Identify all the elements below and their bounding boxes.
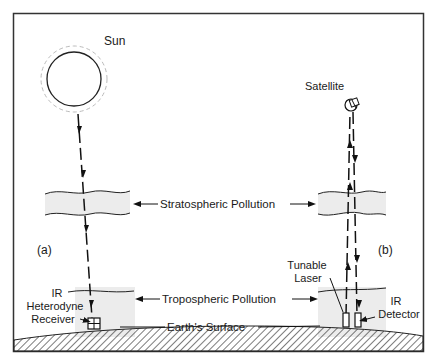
earth-surface-label: Earth's Surface <box>167 321 245 333</box>
ir-receiver-label-line1: IR <box>37 287 77 299</box>
ir-detector-icon <box>355 313 361 327</box>
stratospheric-pollution-label: Stratospheric Pollution <box>160 198 275 210</box>
satellite-icon <box>345 98 359 111</box>
ir-detector-label-line2: Detector <box>375 308 423 320</box>
ir-detector-label-line1: IR <box>384 295 408 307</box>
sun-icon <box>41 46 107 112</box>
tunable-laser-icon <box>343 313 349 327</box>
ir-receiver-label-line2: Heterodyne <box>19 300 91 312</box>
tunable-laser-label-line1: Tunable <box>282 259 332 271</box>
ir-heterodyne-receiver-icon <box>88 318 100 329</box>
stratospheric-band-a <box>45 191 130 215</box>
detector-down-beam <box>353 112 357 316</box>
tunable-laser-label-line2: Laser <box>286 272 330 284</box>
ir-receiver-label-line3: Receiver <box>25 313 81 325</box>
panel-b-label: (b) <box>378 244 393 256</box>
sun-label: Sun <box>104 35 125 47</box>
panel-a-label: (a) <box>37 244 52 256</box>
stratospheric-band-b <box>318 191 386 215</box>
satellite-label: Satellite <box>305 80 344 92</box>
tropospheric-pollution-label: Tropospheric Pollution <box>162 293 276 305</box>
